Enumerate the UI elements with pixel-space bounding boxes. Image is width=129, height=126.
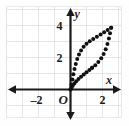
x-axis-label: x	[106, 74, 112, 86]
math-figure: –2 2 2 4 O x y	[0, 0, 129, 126]
x-tick-label-neg2: –2	[31, 94, 43, 106]
origin-label: O	[59, 93, 68, 106]
y-axis-label: y	[75, 8, 80, 20]
x-tick-label-2: 2	[100, 94, 106, 106]
dotted-curve	[0, 0, 129, 126]
y-tick-label-4: 4	[57, 20, 63, 32]
y-tick-label-2: 2	[57, 52, 63, 64]
